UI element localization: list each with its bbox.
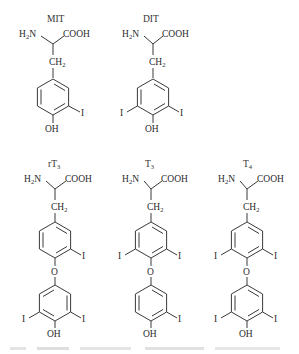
- amine-group: H2N: [24, 174, 41, 185]
- benzene-ring-lower: [231, 285, 262, 321]
- benzene-ring-upper: [39, 222, 70, 258]
- ether-oxygen: O: [147, 267, 154, 277]
- benzene-ring-upper: [231, 222, 262, 258]
- iodine-substituent: I: [82, 251, 85, 261]
- iodine-substituent-left: I: [118, 251, 121, 261]
- benzene-ring-upper: [135, 222, 166, 258]
- benzene-ring: [137, 79, 168, 115]
- cropped-caption-fragment: [10, 347, 280, 350]
- iodine-substituent-right: I: [180, 108, 183, 118]
- benzene-ring: [37, 79, 68, 115]
- iodine-substituent-left: I: [214, 251, 217, 261]
- iodine-substituent-left: I: [214, 314, 217, 324]
- thyroid-hormone-structures-diagram: MIT H2N COOH CH2 I OH DIT H2N COOH CH2 I…: [0, 0, 299, 354]
- iodine-substituent-right: I: [178, 251, 181, 261]
- molecule-t3: T3 H2N COOH CH2 I I O I OH: [118, 159, 188, 339]
- molecule-rt3: rT3 H2N COOH CH2 I O I I OH: [22, 159, 92, 339]
- methylene-group: CH2: [51, 202, 67, 213]
- molecule-name-dit: DIT: [143, 14, 159, 24]
- hydroxyl-group: OH: [239, 329, 253, 339]
- benzene-ring-lower: [135, 285, 166, 321]
- hydroxyl-group: OH: [143, 329, 157, 339]
- carboxyl-group: COOH: [63, 29, 90, 39]
- molecule-name-t4: T4: [243, 159, 253, 170]
- iodine-substituent-right: I: [82, 314, 85, 324]
- molecule-t4: T4 H2N COOH CH2 I I O I I OH: [214, 159, 284, 339]
- hydroxyl-group: OH: [45, 124, 59, 134]
- molecule-name-t3: T3: [145, 159, 154, 170]
- ether-oxygen: O: [51, 267, 58, 277]
- carboxyl-group: COOH: [161, 174, 188, 184]
- amine-group: H2N: [122, 174, 139, 185]
- amine-group: H2N: [19, 29, 36, 40]
- molecule-dit: DIT H2N COOH CH2 I I OH: [120, 14, 189, 134]
- methylene-group: CH2: [243, 202, 259, 213]
- benzene-ring-lower: [39, 285, 70, 321]
- hydroxyl-group: OH: [47, 329, 61, 339]
- methylene-group: CH2: [49, 57, 65, 68]
- amine-group: H2N: [122, 29, 139, 40]
- iodine-substituent-left: I: [120, 108, 123, 118]
- iodine-substituent-left: I: [22, 314, 25, 324]
- molecule-mit: MIT H2N COOH CH2 I OH: [19, 14, 90, 134]
- iodine-substituent: I: [178, 314, 181, 324]
- iodine-substituent-right: I: [274, 314, 277, 324]
- carboxyl-group: COOH: [162, 29, 189, 39]
- iodine-substituent: I: [81, 108, 84, 118]
- carboxyl-group: COOH: [65, 174, 92, 184]
- amine-group: H2N: [218, 174, 235, 185]
- methylene-group: CH2: [147, 202, 163, 213]
- molecule-name-mit: MIT: [47, 14, 65, 24]
- methylene-group: CH2: [149, 57, 165, 68]
- iodine-substituent-right: I: [274, 251, 277, 261]
- molecule-name-rt3: rT3: [48, 159, 60, 170]
- carboxyl-group: COOH: [257, 174, 284, 184]
- hydroxyl-group: OH: [145, 124, 159, 134]
- ether-oxygen: O: [243, 267, 250, 277]
